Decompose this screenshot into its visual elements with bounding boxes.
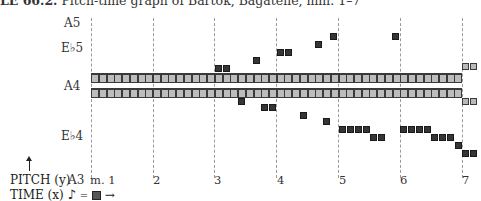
dark-note-square [378, 134, 385, 141]
dark-note-square [370, 134, 377, 141]
band-cell [340, 75, 346, 82]
band-cell [123, 90, 129, 97]
time-axis-legend: TIME (x) ♪ = → [10, 187, 115, 201]
dark-note-square [323, 118, 330, 125]
band-cell [262, 90, 268, 97]
dark-note-square [431, 134, 438, 141]
dark-note-square [215, 65, 222, 72]
measure-label: 6 [400, 173, 407, 187]
dark-note-square [223, 65, 230, 72]
pitch-label: E♭5 [61, 41, 83, 55]
band-cell [216, 90, 222, 97]
dark-note-square [470, 150, 477, 157]
measure-label: 2 [153, 173, 160, 187]
band-cell [409, 75, 415, 82]
measure-label: 5 [339, 173, 346, 187]
band-cell [92, 75, 98, 82]
band-cell [193, 90, 199, 97]
band-cell [154, 90, 160, 97]
band-cell [316, 75, 322, 82]
band-cell [332, 75, 338, 82]
dark-note-square [355, 126, 362, 133]
light-note-square [462, 63, 469, 70]
band-cell [255, 75, 261, 82]
dark-note-square [330, 33, 337, 40]
equals-sign: = [80, 190, 88, 201]
band-cell [316, 90, 322, 97]
dark-note-square [400, 126, 407, 133]
band-cell [285, 75, 291, 82]
band-cell [139, 75, 145, 82]
band-cell [200, 75, 206, 82]
band-cell [324, 90, 330, 97]
dark-note-square [455, 142, 462, 149]
band-cell [278, 75, 284, 82]
measure-gridline [153, 18, 154, 178]
band-cell [247, 90, 253, 97]
band-cell [347, 75, 353, 82]
band-cell [332, 90, 338, 97]
light-note-square [462, 98, 469, 105]
band-cell [185, 90, 191, 97]
band-cell [92, 90, 98, 97]
figure-caption: Pitch-time graph of Bartók, Bagatelle, m… [61, 0, 360, 8]
band-cell [224, 75, 230, 82]
band-cell [448, 75, 454, 82]
dark-note-square [408, 126, 415, 133]
band-cell [394, 90, 400, 97]
dark-note-square [253, 57, 260, 64]
pitch-axis-label: PITCH (y) [10, 173, 70, 187]
dark-note-square [392, 33, 399, 40]
lower-a4-sustain [91, 88, 462, 98]
dark-note-square [416, 126, 423, 133]
band-cell [386, 90, 392, 97]
band-cell [363, 75, 369, 82]
light-note-square [470, 63, 477, 70]
legend-square-icon [92, 191, 101, 200]
band-cell [169, 90, 175, 97]
band-cell [108, 90, 114, 97]
dark-note-square [261, 104, 268, 111]
dark-note-square [269, 104, 276, 111]
band-cell [100, 75, 106, 82]
band-cell [432, 75, 438, 82]
dark-note-square [363, 126, 370, 133]
band-cell [278, 90, 284, 97]
band-cell [440, 75, 446, 82]
band-cell [409, 90, 415, 97]
band-cell [401, 90, 407, 97]
band-cell [417, 90, 423, 97]
band-cell [216, 75, 222, 82]
band-cell [309, 75, 315, 82]
band-cell [162, 75, 168, 82]
dark-note-square [238, 98, 245, 105]
band-cell [363, 90, 369, 97]
dark-note-square [315, 41, 322, 48]
band-cell [448, 90, 454, 97]
band-cell [378, 75, 384, 82]
band-cell [401, 75, 407, 82]
band-cell [146, 90, 152, 97]
band-cell [425, 90, 431, 97]
band-cell [340, 90, 346, 97]
band-cell [115, 75, 121, 82]
dark-note-square [300, 112, 307, 119]
figure-number: LE 66.2. [0, 0, 57, 8]
band-cell [100, 90, 106, 97]
band-cell [185, 75, 191, 82]
band-cell [177, 75, 183, 82]
dark-note-square [347, 126, 354, 133]
band-cell [231, 75, 237, 82]
band-cell [455, 90, 461, 97]
band-cell [455, 75, 461, 82]
band-cell [169, 75, 175, 82]
pitch-axis-legend: PITCH (y) [10, 173, 70, 187]
band-cell [417, 75, 423, 82]
band-cell [193, 75, 199, 82]
band-cell [370, 75, 376, 82]
band-cell [131, 75, 137, 82]
band-cell [231, 90, 237, 97]
band-cell [239, 75, 245, 82]
band-cell [293, 75, 299, 82]
band-cell [177, 90, 183, 97]
